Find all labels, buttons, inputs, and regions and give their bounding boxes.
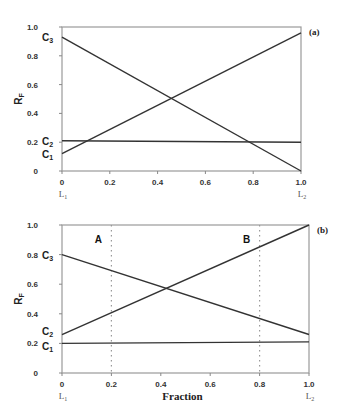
y-tick-label: 0 [34, 369, 39, 378]
y-tick-label: 0.6 [27, 81, 39, 90]
series-line-c1 [62, 33, 301, 154]
y-tick-label: 0.4 [27, 310, 39, 319]
x-end-label-right: L2 [306, 391, 315, 402]
y-axis-title: RF [13, 93, 25, 105]
y-tick-label: 0.4 [27, 109, 39, 118]
x-tick-label: 0 [60, 178, 65, 187]
chart-panel-a: 00.20.40.60.81.000.20.40.60.81.0L1L2RF(a… [13, 23, 320, 200]
series-label-c2: C2 [42, 326, 53, 338]
x-tick-label: 0.4 [155, 380, 167, 389]
x-tick-label: 0.8 [248, 178, 260, 187]
x-end-label-left: L1 [59, 391, 68, 402]
series-line-c3 [62, 37, 301, 171]
x-tick-label: 1.0 [303, 380, 315, 389]
marker-label-b: B [243, 234, 250, 245]
chart-panel-b: 00.20.40.60.81.000.20.40.60.81.0L1L2RF(b… [13, 221, 328, 402]
series-line-c1 [62, 342, 309, 343]
series-label-c1: C1 [42, 149, 53, 161]
x-tick-label: 0.2 [104, 178, 116, 187]
y-tick-label: 0 [34, 167, 39, 176]
y-tick-label: 0.2 [27, 339, 39, 348]
x-end-label-left: L1 [59, 189, 68, 200]
y-tick-label: 0.6 [27, 280, 39, 289]
x-end-label-right: L2 [298, 189, 307, 200]
series-line-c3 [62, 255, 309, 335]
plot-frame [62, 27, 301, 171]
y-tick-label: 0.2 [27, 138, 39, 147]
x-tick-label: 0.6 [200, 178, 212, 187]
figure: 00.20.40.60.81.000.20.40.60.81.0L1L2RF(a… [0, 0, 344, 419]
marker-label-a: A [95, 234, 102, 245]
series-label-c3: C3 [42, 32, 53, 44]
plot-frame [62, 225, 309, 373]
series-line-c2 [62, 141, 301, 142]
x-tick-label: 0 [60, 380, 65, 389]
x-axis-title: Fraction [162, 390, 202, 402]
y-tick-label: 0.8 [27, 52, 39, 61]
series-label-c2: C2 [42, 136, 53, 148]
x-tick-label: 0.4 [152, 178, 164, 187]
panel-label: (b) [317, 225, 328, 235]
y-tick-label: 1.0 [27, 23, 39, 32]
x-tick-label: 0.6 [205, 380, 217, 389]
y-axis-title: RF [13, 293, 25, 305]
y-tick-label: 1.0 [27, 221, 39, 230]
x-tick-label: 1.0 [295, 178, 307, 187]
x-tick-label: 0.8 [254, 380, 266, 389]
series-label-c1: C1 [42, 341, 53, 353]
y-tick-label: 0.8 [27, 251, 39, 260]
series-label-c3: C3 [42, 250, 53, 262]
panel-label: (a) [309, 27, 320, 37]
x-tick-label: 0.2 [106, 380, 118, 389]
